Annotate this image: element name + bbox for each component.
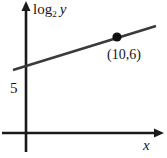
y-axis-label-base: 2 <box>52 9 57 19</box>
y-axis-arrow-icon <box>22 1 31 11</box>
figure-canvas <box>0 0 167 158</box>
y-axis-label-log: log <box>33 1 52 17</box>
data-point-marker <box>112 32 121 41</box>
y-axis-label-variable: y <box>60 1 67 17</box>
y-axis-label: log2y <box>33 2 66 19</box>
y-intercept-label: 5 <box>10 81 18 96</box>
log-plot-figure: log2y x 5 (10,6) <box>0 0 167 158</box>
x-axis-arrow-icon <box>154 129 164 138</box>
data-point-label: (10,6) <box>107 48 141 62</box>
x-axis-label: x <box>143 138 150 153</box>
